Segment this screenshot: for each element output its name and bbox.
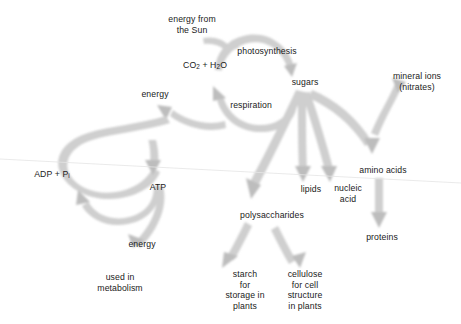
label-sugars: sugars (292, 77, 319, 88)
label-nucleic-acid: nucleic acid (334, 183, 362, 204)
arrow-poly-to-cellulose (271, 226, 296, 264)
arrowhead-nucleic (321, 166, 337, 182)
label-proteins: proteins (366, 232, 398, 243)
adp-text: ADP + Pi (34, 169, 70, 179)
label-starch: starch for storage in plants (225, 269, 264, 311)
label-polysaccharides: polysaccharides (240, 210, 304, 221)
co2-h2o-text: CO2 + H2O (183, 60, 227, 70)
arrow-amino-to-proteins (375, 178, 383, 216)
arrowhead-proteins (371, 212, 387, 228)
arrowhead-amino (364, 138, 380, 154)
arrow-respiration-to-energy (170, 110, 226, 130)
arrowhead-photosynthesis (284, 63, 297, 77)
arrowhead-lipids (295, 166, 311, 182)
metabolism-diagram: energy from the Sun photosynthesis CO2 +… (0, 0, 461, 324)
label-energy-lower: energy (128, 239, 155, 250)
label-respiration: respiration (230, 100, 272, 111)
label-energy-left: energy (141, 89, 168, 100)
label-mineral-ions: mineral ions (nitrates) (393, 71, 441, 92)
label-lipids: lipids (301, 184, 321, 195)
label-energy-from-sun: energy from the Sun (168, 14, 215, 35)
label-amino-acids: amino acids (359, 165, 406, 176)
label-adp-pi: ADP + Pi (34, 169, 70, 182)
arrow-atp-to-adp (82, 185, 160, 225)
label-used-in-metabolism: used in metabolism (97, 272, 142, 293)
label-co2-h2o: CO2 + H2O (183, 60, 227, 73)
arrowhead-respiration (213, 86, 226, 101)
label-atp: ATP (150, 182, 167, 193)
label-cellulose: cellulose for cell structure in plants (288, 269, 323, 311)
label-photosynthesis: photosynthesis (237, 46, 296, 57)
